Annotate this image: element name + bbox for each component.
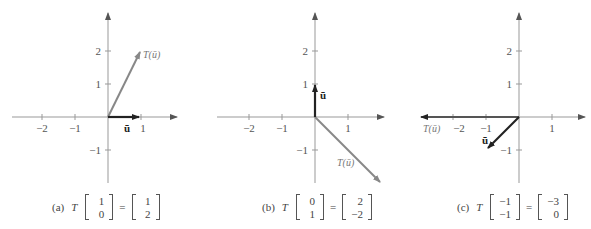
x-tick-label: −1 <box>480 122 492 134</box>
y-tick-label: −1 <box>500 144 512 156</box>
ticks <box>42 51 141 150</box>
equals-sign: = <box>526 201 532 213</box>
input-vector: 01 <box>296 194 324 220</box>
y-tick-label: 2 <box>303 45 309 57</box>
x-tick-label: 1 <box>140 122 146 134</box>
output-vector: 12 <box>132 194 160 220</box>
entry: 0 <box>554 208 560 220</box>
x-tick-label: 1 <box>549 122 555 134</box>
y-tick-label: −1 <box>296 144 308 156</box>
entry: 1 <box>99 195 105 207</box>
Tu-label: T(ū) <box>337 157 355 169</box>
entry: −1 <box>499 208 511 220</box>
panel-b-plot: −2 −1 1 2 1 −1 T(ū) ū <box>217 13 384 183</box>
y-tick-label: 1 <box>303 78 309 90</box>
entry: 1 <box>145 195 151 207</box>
input-vector: 10 <box>85 194 113 220</box>
entry: 0 <box>309 195 315 207</box>
transform-symbol: T <box>476 201 482 213</box>
x-tick-label: −2 <box>243 122 255 134</box>
y-tick-label: 2 <box>96 45 102 57</box>
u-label: ū <box>482 134 488 146</box>
caption-c: (c) T −1−1 = −30 <box>457 193 570 221</box>
caption-a: (a) T 10 = 12 <box>52 193 162 221</box>
panel-a-plot: −2 −1 1 2 1 −1 T(ū) ū <box>12 13 177 183</box>
y-tick-label: 1 <box>96 78 102 90</box>
x-tick-label: −2 <box>453 122 465 134</box>
entry: 2 <box>357 195 363 207</box>
panel-c-plot: −2 −1 1 2 1 −1 T(ū) ū <box>421 13 585 183</box>
Tu-label: T(ū) <box>143 49 161 61</box>
x-tick-label: 1 <box>345 122 351 134</box>
output-vector: 2−2 <box>342 194 372 220</box>
x-tick-label: −1 <box>276 122 288 134</box>
y-tick-label: 2 <box>507 45 513 57</box>
x-tick-label: −2 <box>36 122 48 134</box>
equals-sign: = <box>119 201 125 213</box>
transform-symbol: T <box>282 201 288 213</box>
u-label: ū <box>320 89 326 101</box>
caption-tag: (a) <box>52 201 64 213</box>
input-vector: −1−1 <box>490 194 520 220</box>
entry: 0 <box>99 208 105 220</box>
caption-tag: (b) <box>262 201 275 213</box>
entry: 1 <box>309 208 315 220</box>
caption-b: (b) T 01 = 2−2 <box>262 193 374 221</box>
Tu-vector <box>108 52 140 117</box>
output-vector: −30 <box>538 194 568 220</box>
y-tick-label: 1 <box>507 78 513 90</box>
u-label: ū <box>124 122 130 134</box>
equals-sign: = <box>330 201 336 213</box>
ticks <box>453 51 552 150</box>
y-tick-label: −1 <box>89 144 101 156</box>
entry: −3 <box>547 195 559 207</box>
caption-tag: (c) <box>457 201 469 213</box>
transform-symbol: T <box>71 201 77 213</box>
x-tick-label: −1 <box>69 122 81 134</box>
entry: 2 <box>145 208 151 220</box>
entry: −1 <box>499 195 511 207</box>
Tu-label: T(ū) <box>423 123 441 135</box>
entry: −2 <box>351 208 363 220</box>
